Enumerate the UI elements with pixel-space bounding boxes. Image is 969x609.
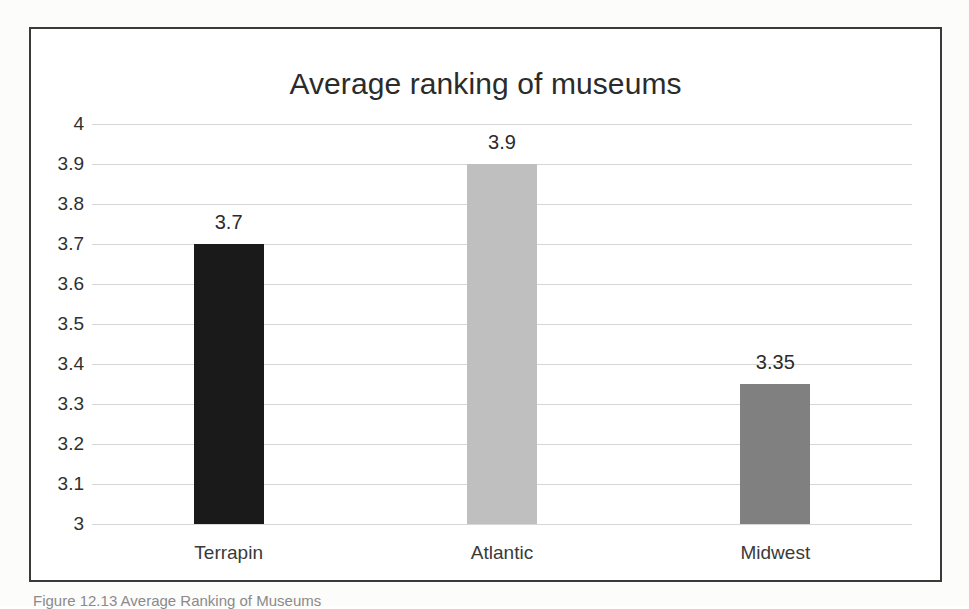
bar xyxy=(740,384,810,524)
y-axis-tick-label: 3.4 xyxy=(32,353,84,375)
bar-value-label: 3.35 xyxy=(756,351,795,374)
y-axis-tick-label: 3.6 xyxy=(32,273,84,295)
y-axis-tick-label: 3.1 xyxy=(32,473,84,495)
figure-frame: Average ranking of museums 43.93.83.73.6… xyxy=(29,27,942,582)
x-axis-category-label: Midwest xyxy=(740,542,810,564)
x-axis-category-label: Terrapin xyxy=(194,542,263,564)
bar-value-label: 3.9 xyxy=(488,131,516,154)
bar xyxy=(194,244,264,524)
gridline xyxy=(92,524,912,525)
y-axis-tick-label: 3.9 xyxy=(32,153,84,175)
y-axis-tick-label: 3.5 xyxy=(32,313,84,335)
chart-title: Average ranking of museums xyxy=(31,67,940,101)
y-axis-tick-label: 3.2 xyxy=(32,433,84,455)
gridline xyxy=(92,124,912,125)
y-axis-tick-label: 3 xyxy=(32,513,84,535)
y-axis-tick-label: 4 xyxy=(32,113,84,135)
y-axis-tick-label: 3.7 xyxy=(32,233,84,255)
x-axis-category-label: Atlantic xyxy=(471,542,533,564)
plot-area: 3.73.93.35 xyxy=(92,124,912,524)
bar xyxy=(467,164,537,524)
bar-value-label: 3.7 xyxy=(215,211,243,234)
figure-caption: Figure 12.13 Average Ranking of Museums xyxy=(33,592,321,609)
y-axis-tick-label: 3.3 xyxy=(32,393,84,415)
y-axis-tick-label: 3.8 xyxy=(32,193,84,215)
